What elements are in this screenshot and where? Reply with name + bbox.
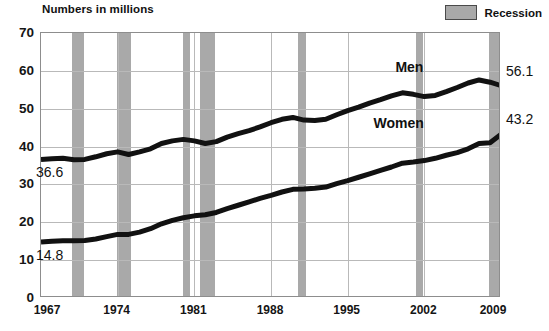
women-start-value-label: 14.8 <box>36 247 63 263</box>
x-tick-label: 1974 <box>103 303 130 317</box>
x-tick-label: 2002 <box>410 303 437 317</box>
men-series-label: Men <box>395 59 423 75</box>
x-tick-label: 2009 <box>480 303 507 317</box>
women-end-value-label: 43.2 <box>506 111 533 127</box>
x-tick-label: 1995 <box>333 303 360 317</box>
y-tick-label: 10 <box>2 252 34 267</box>
x-tick-label: 1988 <box>257 303 284 317</box>
men-start-value-label: 36.6 <box>36 164 63 180</box>
x-tick-label: 1981 <box>180 303 207 317</box>
y-tick-label: 70 <box>2 25 34 40</box>
y-tick-label: 0 <box>2 290 34 305</box>
men-end-value-label: 56.1 <box>506 63 533 79</box>
x-tick-label: 1967 <box>34 303 61 317</box>
y-tick-label: 20 <box>2 214 34 229</box>
y-axis-tick-labels: 010203040506070 <box>0 0 549 331</box>
y-tick-label: 50 <box>2 100 34 115</box>
chart-container: Numbers in millions Recession 0102030405… <box>0 0 549 331</box>
y-tick-label: 60 <box>2 62 34 77</box>
women-series-label: Women <box>374 115 424 131</box>
y-tick-label: 40 <box>2 138 34 153</box>
y-tick-label: 30 <box>2 176 34 191</box>
